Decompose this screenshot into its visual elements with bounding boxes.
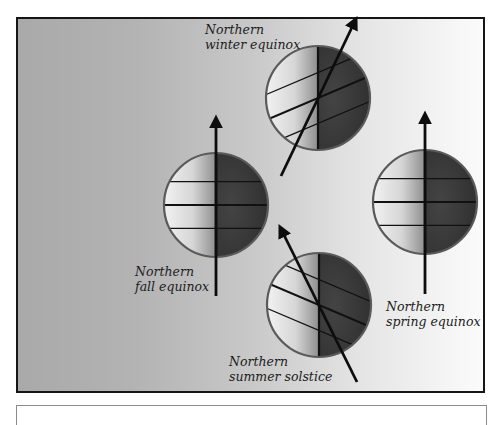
label-fall: Northernfall equinox	[134, 264, 209, 294]
label-summer: Northernsummer solstice	[228, 354, 332, 384]
label-winter: Northernwinter equinox	[204, 22, 300, 52]
caption-panel	[16, 405, 487, 425]
label-spring: Northernspring equinox	[385, 299, 481, 329]
